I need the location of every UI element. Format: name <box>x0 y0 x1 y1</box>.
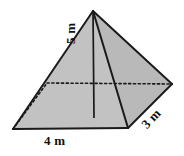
height-dimension-label: 5 m <box>64 23 77 44</box>
base-edge-front <box>13 128 128 129</box>
pyramid-figure: 5 m 4 m 3 m <box>0 0 184 156</box>
pyramid-drawing <box>0 0 184 156</box>
height-altitude-line <box>93 11 94 118</box>
base-width-dimension-label: 4 m <box>44 134 65 147</box>
